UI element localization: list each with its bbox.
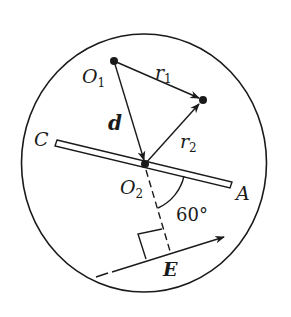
- physics-diagram: O1 r1 d r2 C O2 A 60° E: [0, 0, 291, 317]
- point-p: [199, 96, 207, 104]
- right-angle-marker: [138, 229, 162, 259]
- label-e: E: [162, 258, 178, 280]
- label-r2: r2: [180, 130, 197, 155]
- label-angle: 60°: [176, 204, 208, 225]
- field-e-dashed-tail: [96, 273, 108, 277]
- label-d: d: [108, 111, 122, 135]
- vector-r2-arrow: [145, 104, 199, 164]
- label-r1: r1: [155, 61, 172, 86]
- label-o1: O1: [82, 65, 105, 90]
- point-o2: [141, 160, 149, 168]
- normal-dashed-line: [146, 170, 170, 251]
- label-a: A: [234, 182, 250, 204]
- label-o2: O2: [120, 176, 143, 201]
- point-o1: [110, 57, 118, 65]
- label-c: C: [34, 128, 49, 150]
